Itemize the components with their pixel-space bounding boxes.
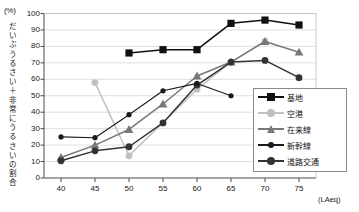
- y-tick-10: 10: [18, 158, 40, 166]
- y-tick-30: 30: [18, 125, 40, 133]
- y-tick-90: 90: [18, 26, 40, 34]
- legend-item-5[interactable]: 道路交通: [254, 153, 346, 169]
- legend-label-3: 在来線: [287, 124, 311, 135]
- y-tick-40: 40: [18, 108, 40, 116]
- series-1: [125, 16, 302, 56]
- x-axis-unit-label: (LAeq): [318, 195, 341, 204]
- legend-marker-square-icon: [258, 91, 284, 103]
- noise-annoyance-line-chart: (%) だいぶうるさい＋非常にうるさいの割合 (LAeq) 0102030405…: [0, 0, 359, 212]
- chart-legend: 基地空港在来線新幹線道路交通: [253, 88, 347, 172]
- legend-item-1[interactable]: 基地: [254, 89, 346, 105]
- x-tick-50: 50: [117, 185, 141, 193]
- legend-label-1: 基地: [287, 92, 303, 103]
- x-tick-70: 70: [253, 185, 277, 193]
- legend-marker-small-circle-icon: [258, 139, 284, 151]
- y-tick-0: 0: [18, 174, 40, 182]
- series-4: [58, 81, 233, 140]
- x-tick-75: 75: [287, 185, 311, 193]
- legend-marker-circle-icon: [258, 107, 284, 119]
- legend-item-4[interactable]: 新幹線: [254, 137, 346, 153]
- y-tick-100: 100: [18, 10, 40, 18]
- legend-marker-triangle-icon: [258, 123, 284, 135]
- x-tick-55: 55: [151, 185, 175, 193]
- y-axis-unit-label: (%): [4, 6, 16, 15]
- y-tick-50: 50: [18, 92, 40, 100]
- y-tick-20: 20: [18, 141, 40, 149]
- x-tick-65: 65: [219, 185, 243, 193]
- x-tick-60: 60: [185, 185, 209, 193]
- legend-label-4: 新幹線: [287, 140, 311, 151]
- x-tick-45: 45: [83, 185, 107, 193]
- y-tick-80: 80: [18, 42, 40, 50]
- legend-marker-circle-icon: [258, 155, 284, 167]
- y-tick-70: 70: [18, 59, 40, 67]
- y-tick-60: 60: [18, 75, 40, 83]
- legend-item-2[interactable]: 空港: [254, 105, 346, 121]
- legend-item-3[interactable]: 在来線: [254, 121, 346, 137]
- legend-label-2: 空港: [287, 108, 303, 119]
- legend-label-5: 道路交通: [287, 156, 319, 167]
- x-tick-40: 40: [49, 185, 73, 193]
